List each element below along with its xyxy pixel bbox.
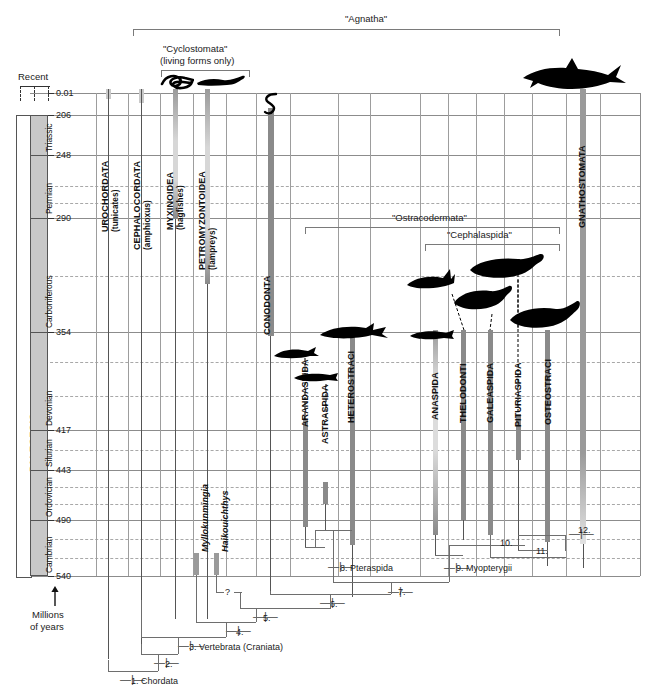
genus-name: Myllokunmingia xyxy=(200,484,210,552)
axis-tick-label: 540 xyxy=(56,571,71,581)
tree-branch xyxy=(141,654,178,655)
tree-branch xyxy=(305,547,325,548)
column-divider xyxy=(128,93,129,576)
bracket-label-cephalaspida: "Cephalaspida" xyxy=(447,230,512,240)
tree-branch xyxy=(226,622,227,637)
axis-tick xyxy=(48,576,54,577)
taxon-common: (lampreys) xyxy=(208,228,217,270)
node-label-3: 3. Vertebrata (Craniata) xyxy=(189,642,283,652)
scale-left-border xyxy=(16,115,17,576)
bracket-label-cyclostomata: "Cyclostomata" xyxy=(163,44,227,54)
gridline-dashed xyxy=(30,186,640,187)
lineage-line-myxinoidea xyxy=(175,219,176,619)
period-label-cambrian: Cambrian xyxy=(44,537,54,573)
axis-tick xyxy=(48,520,54,521)
tree-branch xyxy=(449,568,450,582)
axis-tick xyxy=(48,155,54,156)
axis-tick-label: 0.01 xyxy=(56,88,74,98)
axis-tick xyxy=(48,115,54,116)
taxon-common-cephalocordata: (amphioxus) xyxy=(143,200,152,250)
lineage-line-gnathostomata xyxy=(583,544,584,568)
lamprey-silhouette-icon xyxy=(196,74,246,90)
column-divider xyxy=(96,93,97,576)
axis-tick-label: 443 xyxy=(56,465,71,475)
silhouette-leader-lines xyxy=(260,330,590,450)
taxon-common-myxinoidea: (hagfishes) xyxy=(176,185,185,230)
column-divider xyxy=(600,93,601,576)
taxon-common: (amphioxus) xyxy=(143,200,152,250)
recent-top-rule xyxy=(20,86,50,87)
tree-branch xyxy=(141,600,142,637)
node-label-1: 1. Chordata xyxy=(131,676,178,686)
tree-branch xyxy=(178,637,179,654)
range-bar-myllokunmingia xyxy=(194,553,199,575)
taxon-common-urochordata: (tunicates) xyxy=(111,190,120,233)
recent-stub xyxy=(20,86,21,101)
pituriaspid-leader-line xyxy=(508,274,538,419)
gridline-dashed xyxy=(30,276,640,277)
shark-silhouette-icon xyxy=(520,56,628,94)
tree-branch xyxy=(141,637,226,638)
node-label-9: 9. Myopterygii xyxy=(456,563,512,573)
axis-tick-label: 354 xyxy=(56,327,71,337)
plot-right-border xyxy=(640,93,641,576)
axis-tick-label: 206 xyxy=(56,110,71,120)
gridline-solid xyxy=(30,115,640,116)
node-label-5: 5. xyxy=(263,613,271,623)
axis-tick-label: 248 xyxy=(56,150,71,160)
gridline-solid xyxy=(30,155,640,156)
node-label-10: 10. xyxy=(500,538,513,548)
axis-tick-label: 290 xyxy=(56,213,71,223)
tree-branch xyxy=(565,535,566,551)
recent-stub xyxy=(34,86,35,101)
lineage-line-anaspida xyxy=(435,535,436,555)
tree-branch xyxy=(490,557,566,558)
tree-branch xyxy=(270,591,271,594)
taxon-common-petromyzontoidea: (lampreys) xyxy=(208,228,217,270)
tree-branch xyxy=(108,671,158,672)
taxon-name: UROCHORDATA xyxy=(100,161,110,232)
taxon-common: (hagfishes) xyxy=(176,185,185,230)
lineage-line-pituriaspida xyxy=(518,460,519,550)
axis-tick-label: 417 xyxy=(56,425,71,435)
node-label-question: ? xyxy=(225,587,230,597)
bracket-cephalaspida xyxy=(425,244,560,251)
gridline-dashed xyxy=(30,203,640,204)
taxon-label-urochordata: UROCHORDATA xyxy=(100,161,110,232)
axis-tick-label: 490 xyxy=(56,515,71,525)
recent-label: Recent xyxy=(18,72,48,82)
gridline-solid xyxy=(30,576,640,577)
node-label-6: 6. xyxy=(330,599,338,609)
range-bar-haikouichthys xyxy=(214,553,219,575)
period-label-silurian: Silurian xyxy=(44,439,54,467)
axis-arrow-icon xyxy=(48,586,62,606)
genus-name: Haikouichthys xyxy=(220,490,230,552)
axis-tick xyxy=(48,218,54,219)
taxon-label-conodonta: CONODONTA xyxy=(262,276,272,335)
genus-label-haikouichthys: Haikouichthys xyxy=(220,490,230,552)
bracket-label-ostracodermata: "Ostracodermata" xyxy=(392,213,467,223)
axis-caption-line1: Millions xyxy=(32,610,64,620)
tree-branch xyxy=(256,608,257,622)
tree-branch xyxy=(158,654,159,671)
axis-caption-line2: of years xyxy=(30,622,64,632)
tree-branch xyxy=(216,575,217,592)
taxon-name: CONODONTA xyxy=(262,276,272,335)
tree-branch xyxy=(240,592,241,608)
taxon-name: PETROMYZONTOIDEA xyxy=(197,171,207,270)
node-label-7: 7. xyxy=(398,587,406,597)
taxon-label-cephalocordata: CEPHALOCORDATA xyxy=(132,161,142,250)
node-label-12: 12. xyxy=(578,525,591,535)
period-label-permian: Permian xyxy=(44,183,54,214)
lineage-line-astraspida xyxy=(325,504,326,530)
column-divider xyxy=(160,93,161,576)
hagfish-silhouette-icon xyxy=(160,70,194,92)
lineage-line-thelodonti xyxy=(463,520,464,540)
taxon-name: GNATHOSTOMATA xyxy=(577,145,587,228)
gridline-dashed xyxy=(30,558,640,559)
period-label-carboniferous: Carboniferous xyxy=(44,275,54,328)
tree-branch xyxy=(216,592,224,593)
taxon-label-gnathostomata: GNATHOSTOMATA xyxy=(577,145,587,228)
period-label-devonian: Devonian xyxy=(44,391,54,426)
tree-branch xyxy=(330,594,331,608)
